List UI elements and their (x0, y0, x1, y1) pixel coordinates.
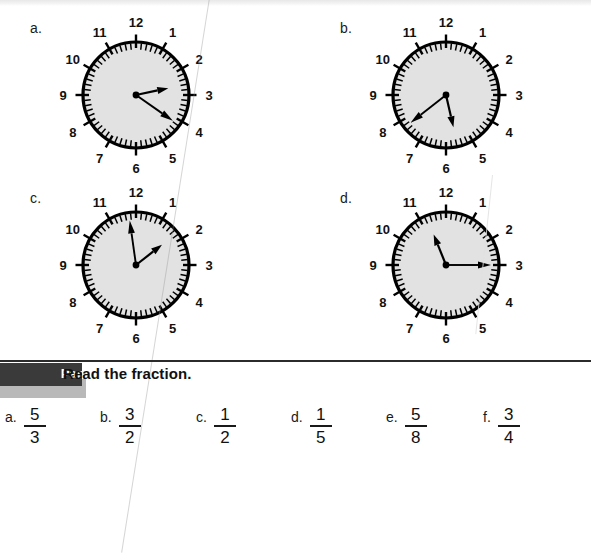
clock-face-b: 121234567891011 (356, 6, 536, 184)
clock-label-b: b. (340, 20, 352, 36)
svg-text:11: 11 (93, 25, 107, 40)
svg-text:4: 4 (196, 295, 204, 310)
svg-text:3: 3 (515, 88, 522, 103)
clock-face-d: 121234567891011 (356, 176, 536, 354)
fraction-bar-e (405, 425, 427, 427)
fraction-numerator-d: 1 (316, 406, 325, 424)
svg-text:5: 5 (479, 321, 486, 336)
svg-text:6: 6 (132, 331, 139, 346)
svg-text:9: 9 (369, 88, 376, 103)
svg-text:6: 6 (442, 331, 449, 346)
svg-text:8: 8 (69, 295, 76, 310)
clock-face-c: 121234567891011 (46, 176, 226, 354)
svg-text:4: 4 (506, 295, 514, 310)
clock-label-c: c. (30, 190, 41, 206)
svg-text:11: 11 (93, 195, 107, 210)
svg-text:6: 6 (442, 161, 449, 176)
fraction-denominator-f: 4 (504, 428, 513, 448)
svg-text:2: 2 (506, 52, 513, 67)
svg-text:8: 8 (379, 295, 386, 310)
svg-text:9: 9 (59, 258, 66, 273)
part-instruction-text: Read the fraction. (63, 365, 192, 382)
svg-text:6: 6 (132, 161, 139, 176)
fraction-bar-a (24, 425, 46, 427)
svg-text:5: 5 (479, 151, 486, 166)
section-divider-rule (0, 360, 591, 362)
svg-text:10: 10 (376, 52, 390, 67)
svg-text:12: 12 (439, 15, 453, 30)
svg-text:2: 2 (196, 222, 203, 237)
svg-text:7: 7 (96, 321, 103, 336)
svg-text:7: 7 (96, 151, 103, 166)
svg-text:5: 5 (169, 321, 176, 336)
fraction-stack-c: 1 2 (214, 406, 236, 448)
fraction-stack-b: 3 2 (119, 406, 141, 448)
fraction-denominator-d: 5 (316, 428, 325, 448)
fraction-numerator-b: 3 (125, 406, 134, 424)
svg-text:1: 1 (169, 195, 176, 210)
fraction-label-f: f. (483, 406, 491, 425)
fraction-denominator-a: 3 (30, 428, 39, 448)
clock-item-d: d. 121234567891011 (332, 176, 562, 354)
clock-exercise-grid: a. 121234567891011 b. 121234567891011 c.… (0, 0, 591, 356)
fraction-label-e: e. (386, 406, 398, 425)
fraction-item-b: b. 3 2 (100, 406, 141, 448)
svg-text:7: 7 (406, 151, 413, 166)
fraction-item-a: a. 5 3 (5, 406, 46, 448)
svg-text:9: 9 (59, 88, 66, 103)
fraction-exercise-row: a. 5 3 b. 3 2 c. 1 2 d. 1 5 e. (0, 406, 591, 466)
fraction-numerator-f: 3 (504, 406, 513, 424)
fraction-item-e: e. 5 8 (386, 406, 427, 448)
fraction-denominator-b: 2 (125, 428, 134, 448)
clock-label-d: d. (340, 190, 352, 206)
svg-text:10: 10 (66, 52, 80, 67)
svg-text:7: 7 (406, 321, 413, 336)
svg-text:10: 10 (376, 222, 390, 237)
svg-text:2: 2 (506, 222, 513, 237)
fraction-bar-f (498, 425, 520, 427)
svg-text:9: 9 (369, 258, 376, 273)
fraction-numerator-e: 5 (411, 406, 420, 424)
fraction-stack-f: 3 4 (498, 406, 520, 448)
clock-item-b: b. 121234567891011 (332, 6, 562, 184)
fraction-denominator-c: 2 (220, 428, 229, 448)
fraction-item-d: d. 1 5 (291, 406, 332, 448)
fraction-stack-d: 1 5 (310, 406, 332, 448)
svg-text:11: 11 (403, 195, 417, 210)
fraction-label-d: d. (291, 406, 303, 425)
svg-text:4: 4 (506, 125, 514, 140)
fraction-item-c: c. 1 2 (196, 406, 236, 448)
svg-text:3: 3 (515, 258, 522, 273)
fraction-bar-d (310, 425, 332, 427)
svg-text:4: 4 (196, 125, 204, 140)
svg-text:8: 8 (379, 125, 386, 140)
fraction-label-c: c. (196, 406, 207, 425)
fraction-stack-a: 5 3 (24, 406, 46, 448)
svg-text:12: 12 (129, 15, 143, 30)
fraction-numerator-a: 5 (30, 406, 39, 424)
fraction-numerator-c: 1 (220, 406, 229, 424)
clock-face-a: 121234567891011 (46, 6, 226, 184)
fraction-label-b: b. (100, 406, 112, 425)
clock-item-a: a. 121234567891011 (22, 6, 252, 184)
svg-text:11: 11 (403, 25, 417, 40)
clock-item-c: c. 121234567891011 (22, 176, 252, 354)
fraction-stack-e: 5 8 (405, 406, 427, 448)
svg-text:10: 10 (66, 222, 80, 237)
svg-text:12: 12 (129, 185, 143, 200)
svg-text:1: 1 (169, 25, 176, 40)
fraction-bar-c (214, 425, 236, 427)
svg-text:12: 12 (439, 185, 453, 200)
clock-label-a: a. (30, 20, 42, 36)
svg-text:3: 3 (205, 88, 212, 103)
fraction-denominator-e: 8 (411, 428, 420, 448)
svg-text:1: 1 (479, 25, 486, 40)
svg-text:3: 3 (205, 258, 212, 273)
fraction-item-f: f. 3 4 (483, 406, 520, 448)
svg-text:2: 2 (196, 52, 203, 67)
fraction-bar-b (119, 425, 141, 427)
svg-text:8: 8 (69, 125, 76, 140)
fraction-label-a: a. (5, 406, 17, 425)
svg-text:1: 1 (479, 195, 486, 210)
svg-text:5: 5 (169, 151, 176, 166)
